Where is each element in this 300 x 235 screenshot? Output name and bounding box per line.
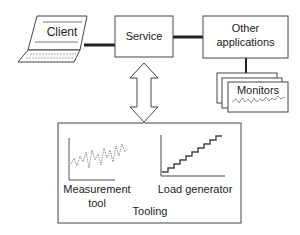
tooling-label: Tooling [120,205,180,218]
laptop-icon [18,16,87,62]
other-apps-label-2: applications [203,36,288,49]
client-label: Client [40,26,84,39]
load-generator-label: Load generator [155,183,235,196]
other-apps-label-1: Other [203,22,288,35]
monitors-label: Monitors [228,84,288,97]
double-arrow-icon [130,63,158,122]
measurement-tool-label-1: Measurement [62,183,132,196]
service-label: Service [115,30,173,43]
